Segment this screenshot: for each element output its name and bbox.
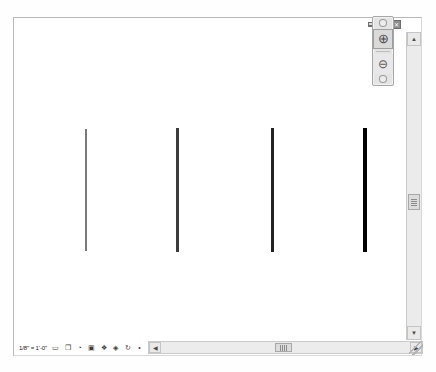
horizontal-scrollbar-thumb[interactable] xyxy=(275,343,292,352)
zoom-out-tool[interactable]: ⊖ xyxy=(373,54,393,74)
thumb-grip-icon xyxy=(411,199,417,206)
vertical-scrollbar-thumb[interactable] xyxy=(408,194,420,210)
scroll-left-button[interactable]: ◀ xyxy=(149,342,161,353)
cad-line-3[interactable] xyxy=(271,128,274,252)
zoom-in-tool[interactable]: ⊕ xyxy=(373,29,393,49)
constraints-icon[interactable]: • xyxy=(135,343,144,352)
rotate-view-icon[interactable]: ↻ xyxy=(123,343,132,352)
cad-document-window: ❐ ✕ ▲ ▼ 1/8" = 1'-0" ▭ ❐ ◔ ▣ xyxy=(13,17,422,356)
classes-icon[interactable]: ◔ xyxy=(75,343,84,352)
cad-line-2[interactable] xyxy=(176,128,179,252)
drawing-canvas[interactable] xyxy=(14,32,406,340)
palette-grip-icon xyxy=(379,19,387,27)
scale-readout[interactable]: 1/8" = 1'-0" xyxy=(14,345,51,351)
snap-icon[interactable]: ◈ xyxy=(111,343,120,352)
horizontal-scrollbar[interactable]: ◀ ▶ xyxy=(148,341,423,354)
zoom-palette[interactable]: ⊕ ⊖ xyxy=(372,16,394,86)
render-icon[interactable]: ❖ xyxy=(99,343,108,352)
desktop-background: ❐ ✕ ▲ ▼ 1/8" = 1'-0" ▭ ❐ ◔ ▣ xyxy=(0,0,436,372)
window-titlebar[interactable]: ❐ ✕ xyxy=(14,18,421,32)
palette-resize-icon[interactable] xyxy=(379,75,387,83)
thumb-grip-icon xyxy=(280,345,287,351)
view-icon[interactable]: ▣ xyxy=(87,343,96,352)
window-resize-grip[interactable] xyxy=(409,341,423,355)
scroll-down-button[interactable]: ▼ xyxy=(407,326,421,340)
layers-icon[interactable]: ❐ xyxy=(63,343,72,352)
cad-line-4[interactable] xyxy=(363,128,367,252)
cad-line-1[interactable] xyxy=(85,129,87,251)
status-bar: 1/8" = 1'-0" ▭ ❐ ◔ ▣ ❖ ◈ ↻ • ◀ ▶ xyxy=(14,340,423,355)
page-icon[interactable]: ▭ xyxy=(51,343,60,352)
scroll-up-button[interactable]: ▲ xyxy=(407,32,421,46)
status-tools-group: ▭ ❐ ◔ ▣ ❖ ◈ ↻ • xyxy=(51,343,148,352)
palette-divider xyxy=(376,51,390,52)
vertical-scrollbar[interactable]: ▲ ▼ xyxy=(406,32,421,340)
